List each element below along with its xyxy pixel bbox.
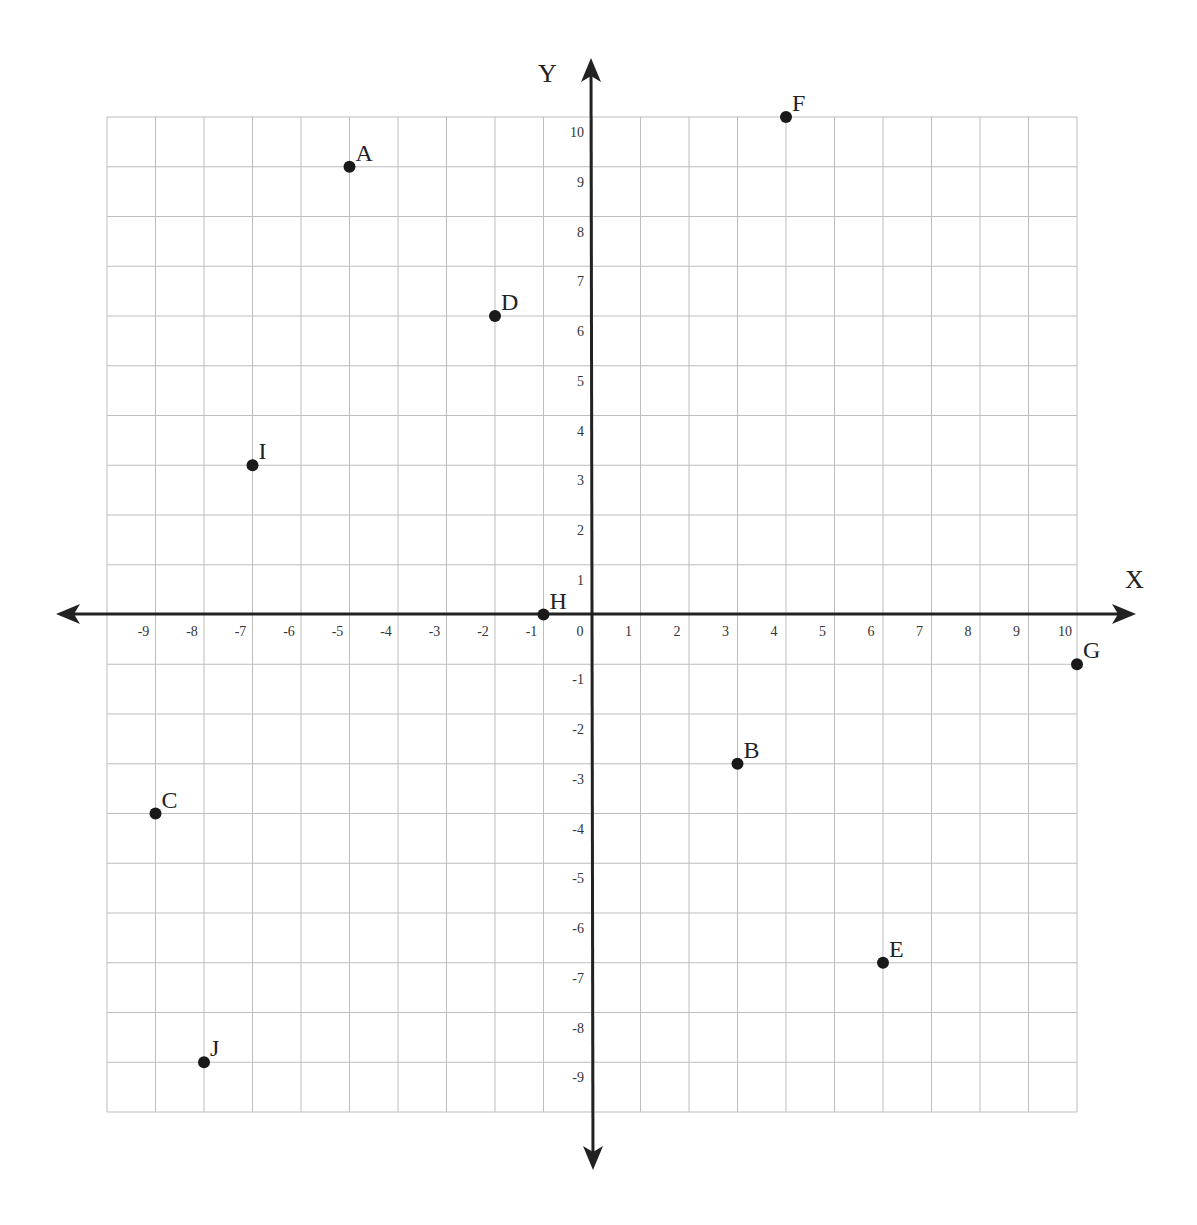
- x-tick-label: 0: [577, 624, 584, 639]
- y-tick-label: -1: [572, 672, 584, 687]
- y-tick-label: 2: [577, 523, 584, 538]
- y-tick-label: 4: [577, 424, 584, 439]
- y-tick-label: 9: [577, 175, 584, 190]
- x-tick-label: 2: [674, 624, 681, 639]
- point-marker-icon: [780, 111, 792, 123]
- point-marker-icon: [247, 459, 259, 471]
- y-tick-label: -2: [572, 722, 584, 737]
- y-tick-labels: 10987654321-1-2-3-4-5-6-7-8-9: [570, 125, 584, 1085]
- y-tick-label: 7: [577, 274, 584, 289]
- y-tick-label: 3: [577, 473, 584, 488]
- x-axis-label: X: [1125, 565, 1144, 594]
- x-tick-label: 8: [965, 624, 972, 639]
- y-tick-label: -6: [572, 921, 584, 936]
- x-tick-label: -8: [186, 624, 198, 639]
- point-label: B: [744, 737, 760, 763]
- x-tick-label: -3: [429, 624, 441, 639]
- point-marker-icon: [344, 161, 356, 173]
- data-point-b: B: [732, 737, 760, 770]
- point-marker-icon: [732, 758, 744, 770]
- data-point-d: D: [489, 289, 518, 322]
- x-tick-label: 7: [916, 624, 923, 639]
- y-tick-label: -5: [572, 871, 584, 886]
- point-label: H: [550, 588, 567, 614]
- data-points: ABCDEFGHIJ: [150, 90, 1101, 1068]
- data-point-g: G: [1071, 637, 1100, 670]
- y-tick-label: 1: [577, 573, 584, 588]
- point-label: J: [210, 1035, 219, 1061]
- x-tick-label: 4: [771, 624, 778, 639]
- y-tick-label: -3: [572, 772, 584, 787]
- x-tick-label: 3: [722, 624, 729, 639]
- point-label: C: [162, 787, 178, 813]
- x-tick-label: -2: [477, 624, 489, 639]
- point-label: D: [501, 289, 518, 315]
- data-point-h: H: [538, 588, 567, 621]
- x-tick-label: 5: [819, 624, 826, 639]
- point-marker-icon: [489, 310, 501, 322]
- y-axis: [591, 64, 593, 1165]
- point-marker-icon: [198, 1056, 210, 1068]
- data-point-f: F: [780, 90, 805, 123]
- y-tick-label: 6: [577, 324, 584, 339]
- axes: X Y: [56, 58, 1144, 1170]
- point-label: G: [1083, 637, 1100, 663]
- x-tick-label: -7: [235, 624, 247, 639]
- data-point-i: I: [247, 438, 267, 471]
- point-label: F: [792, 90, 805, 116]
- y-tick-label: 8: [577, 225, 584, 240]
- x-tick-label: 6: [868, 624, 875, 639]
- point-label: E: [889, 936, 904, 962]
- point-marker-icon: [150, 808, 162, 820]
- y-tick-label: -4: [572, 822, 584, 837]
- y-axis-label: Y: [538, 59, 557, 88]
- x-tick-label: 9: [1013, 624, 1020, 639]
- point-label: A: [356, 140, 374, 166]
- x-tick-label: -9: [138, 624, 150, 639]
- x-tick-label: -4: [380, 624, 392, 639]
- x-tick-label: -6: [283, 624, 295, 639]
- x-tick-label: 1: [625, 624, 632, 639]
- point-label: I: [259, 438, 267, 464]
- coordinate-plane: X Y -9-8-7-6-5-4-3-2-1012345678910 10987…: [0, 0, 1197, 1225]
- point-marker-icon: [877, 957, 889, 969]
- data-point-e: E: [877, 936, 904, 969]
- x-tick-label: -5: [332, 624, 344, 639]
- data-point-j: J: [198, 1035, 219, 1068]
- y-tick-label: 5: [577, 374, 584, 389]
- y-tick-label: -7: [572, 971, 584, 986]
- x-tick-label: 10: [1058, 624, 1072, 639]
- data-point-a: A: [344, 140, 374, 173]
- point-marker-icon: [538, 609, 550, 621]
- point-marker-icon: [1071, 658, 1083, 670]
- y-tick-label: 10: [570, 125, 584, 140]
- x-tick-label: -1: [526, 624, 538, 639]
- data-point-c: C: [150, 787, 178, 820]
- y-tick-label: -8: [572, 1021, 584, 1036]
- y-tick-label: -9: [572, 1070, 584, 1085]
